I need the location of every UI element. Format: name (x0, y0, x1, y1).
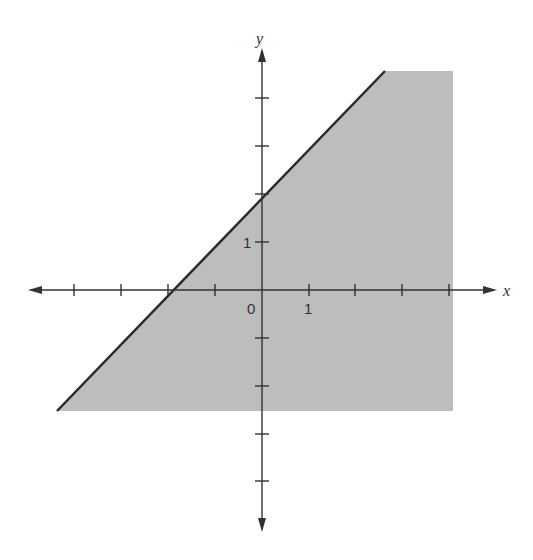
x-axis-label: x (502, 282, 510, 299)
x-axis-right-arrow (483, 286, 497, 294)
shaded-region (57, 71, 453, 411)
y-axis-label: y (254, 30, 264, 48)
y-axis-bottom-arrow (258, 518, 266, 532)
y-one-label: 1 (243, 234, 251, 251)
origin-label: 0 (247, 300, 255, 317)
y-axis-top-arrow (258, 48, 266, 62)
x-axis-left-arrow (28, 286, 42, 294)
inequality-graph: y x 0 1 1 (0, 0, 533, 560)
x-one-label: 1 (304, 300, 312, 317)
